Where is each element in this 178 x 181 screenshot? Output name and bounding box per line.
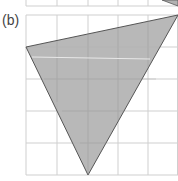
top-triangle-corner bbox=[162, 0, 178, 6]
shaded-triangle bbox=[26, 15, 178, 175]
grid-diagram bbox=[0, 0, 178, 181]
top-grid-partial bbox=[26, 0, 178, 6]
